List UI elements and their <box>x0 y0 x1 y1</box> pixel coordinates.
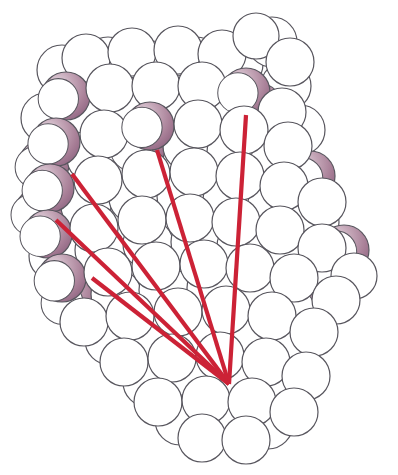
space-filling-model-canvas <box>0 0 398 475</box>
atom-sphere <box>86 64 134 112</box>
atom-highlight-cap <box>34 261 74 301</box>
atom-sphere <box>248 292 296 340</box>
atom-sphere-body <box>134 378 182 426</box>
atom-sphere-body <box>74 156 122 204</box>
atom-sphere <box>266 38 314 86</box>
atom-sphere-body <box>290 308 338 356</box>
atom-sphere <box>270 388 318 436</box>
atom-sphere-body <box>80 110 128 158</box>
atom-sphere <box>212 198 260 246</box>
atom-sphere <box>74 156 122 204</box>
atom-sphere-body <box>212 198 260 246</box>
atom-sphere-body <box>266 38 314 86</box>
atom-sphere-body <box>298 178 346 226</box>
atom-sphere-body <box>222 416 270 464</box>
atom-sphere-body <box>256 206 304 254</box>
atom-sphere-body <box>86 64 134 112</box>
atom-sphere <box>106 292 154 340</box>
atom-sphere-body <box>248 292 296 340</box>
atom-sphere <box>80 110 128 158</box>
atom-sphere-body <box>100 338 148 386</box>
molecular-model-figure: Space-filling molecular model with conve… <box>0 0 398 475</box>
atom-highlight-cap <box>122 107 162 147</box>
atom-highlight-cap <box>20 216 60 256</box>
atom-highlight-cap <box>38 79 78 119</box>
atom-sphere-body <box>60 298 108 346</box>
atom-sphere-body <box>174 100 222 148</box>
atom-sphere <box>118 196 166 244</box>
atom-sphere-body <box>270 388 318 436</box>
atom-sphere <box>174 100 222 148</box>
atom-sphere <box>170 148 218 196</box>
atom-sphere <box>202 286 250 334</box>
atom-sphere <box>178 414 226 462</box>
atom-sphere <box>222 416 270 464</box>
atom-sphere-body <box>202 286 250 334</box>
atom-sphere-body <box>118 196 166 244</box>
atom-sphere <box>100 338 148 386</box>
atom-sphere-body <box>170 148 218 196</box>
atom-highlight-cap <box>22 170 62 210</box>
atom-sphere <box>60 298 108 346</box>
atom-highlight-cap <box>28 124 68 164</box>
atom-sphere <box>256 206 304 254</box>
atom-sphere-body <box>106 292 154 340</box>
atom-sphere <box>290 308 338 356</box>
atom-sphere <box>298 178 346 226</box>
atom-sphere <box>134 378 182 426</box>
atom-sphere-body <box>178 414 226 462</box>
